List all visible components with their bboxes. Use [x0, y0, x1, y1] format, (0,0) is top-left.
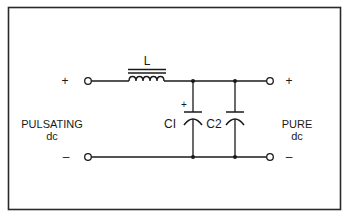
input-minus-terminal: [85, 154, 92, 161]
input-label-line2: dc: [46, 130, 58, 142]
inductor-L: L: [128, 54, 166, 81]
c1-polarity-plus: +: [181, 99, 187, 110]
output-label-line1: PURE: [282, 118, 313, 130]
input-plus-sign: +: [61, 74, 68, 88]
input-minus-sign: –: [63, 150, 70, 164]
c1-label: CI: [164, 117, 176, 131]
diagram-frame: [9, 8, 341, 210]
output-minus-sign: –: [286, 150, 293, 164]
capacitor-C1: + CI: [164, 79, 202, 159]
output-plus-sign: +: [285, 74, 292, 88]
inductor-coil: [129, 77, 164, 82]
c2-label: C2: [206, 117, 222, 131]
input-plus-terminal: [85, 78, 92, 85]
inductor-label: L: [144, 54, 151, 68]
output-minus-terminal: [267, 154, 274, 161]
output-label-line2: dc: [291, 130, 303, 142]
filter-circuit-diagram: + – L + CI C2 + –: [0, 0, 349, 218]
capacitor-C2: C2: [206, 79, 244, 159]
input-label-line1: PULSATING: [21, 118, 83, 130]
output-plus-terminal: [267, 78, 274, 85]
